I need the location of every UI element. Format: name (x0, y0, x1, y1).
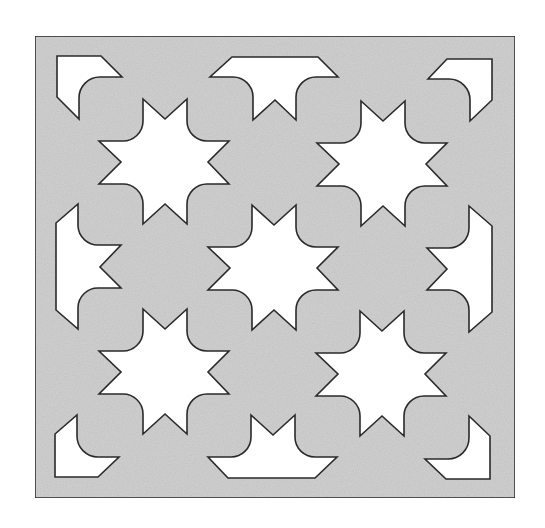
tile-diagram (0, 0, 545, 528)
